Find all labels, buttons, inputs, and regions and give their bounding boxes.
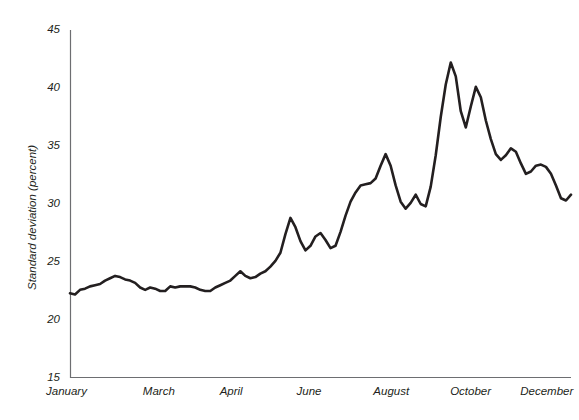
line-chart-plot (0, 0, 579, 420)
data-series-line (70, 62, 571, 294)
chart-figure: Standard deviation (percent) 15202530354… (0, 0, 579, 420)
